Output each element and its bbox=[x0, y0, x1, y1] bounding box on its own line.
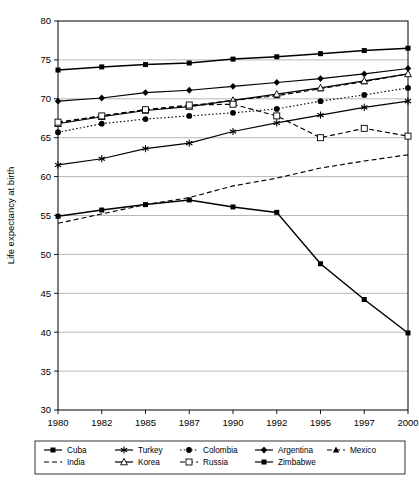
data-point-russia-1997 bbox=[361, 125, 367, 131]
legend-label-korea: Korea bbox=[138, 458, 160, 467]
data-point-russia-1990 bbox=[230, 101, 236, 107]
data-point-russia-1987 bbox=[186, 102, 192, 108]
y-tick-label-70: 70 bbox=[40, 93, 51, 104]
legend-item-turkey[interactable]: Turkey bbox=[115, 446, 164, 455]
y-tick-label-80: 80 bbox=[40, 15, 51, 26]
data-point-zimbabwe-1997 bbox=[362, 297, 367, 302]
data-point-argentina-1997 bbox=[361, 71, 367, 78]
series-cuba bbox=[56, 46, 411, 73]
data-point-colombia-1982 bbox=[99, 121, 105, 127]
x-tick-label-1995: 1995 bbox=[310, 417, 331, 428]
x-tick-label-1992: 1992 bbox=[266, 417, 287, 428]
x-tick-label-2000: 2000 bbox=[397, 417, 418, 428]
y-tick-label-60: 60 bbox=[40, 171, 51, 182]
data-point-colombia-1987 bbox=[186, 113, 192, 119]
legend-item-argentina[interactable]: Argentina bbox=[255, 446, 313, 455]
data-point-zimbabwe-1987 bbox=[187, 197, 192, 202]
x-tick-label-1982: 1982 bbox=[91, 417, 112, 428]
legend-marker-filled-circle bbox=[186, 447, 192, 453]
data-point-zimbabwe-1982 bbox=[99, 208, 104, 213]
legend-label-cuba: Cuba bbox=[67, 446, 87, 455]
legend-marker-open-square bbox=[186, 459, 192, 465]
legend-label-mexico: Mexico bbox=[350, 446, 376, 455]
data-point-zimbabwe-1992 bbox=[274, 210, 279, 215]
y-tick-label-35: 35 bbox=[40, 366, 51, 377]
data-point-cuba-1980 bbox=[56, 68, 61, 73]
data-point-argentina-1995 bbox=[317, 75, 323, 82]
legend-label-russia: Russia bbox=[203, 458, 228, 467]
data-point-cuba-1987 bbox=[187, 61, 192, 66]
legend-label-colombia: Colombia bbox=[203, 446, 238, 455]
data-point-zimbabwe-1980 bbox=[56, 214, 61, 219]
legend-item-korea[interactable]: Korea bbox=[115, 458, 160, 467]
y-tick-label-45: 45 bbox=[40, 288, 51, 299]
data-point-russia-1992 bbox=[274, 113, 280, 119]
data-point-russia-1980 bbox=[55, 119, 61, 125]
series-india bbox=[58, 155, 408, 223]
data-point-argentina-1987 bbox=[186, 87, 192, 94]
data-point-argentina-1992 bbox=[274, 79, 280, 86]
data-point-argentina-1985 bbox=[142, 89, 148, 96]
y-axis-title-group: Life expectancy at birth bbox=[5, 167, 16, 265]
series-korea bbox=[55, 70, 412, 126]
data-point-cuba-1992 bbox=[274, 54, 279, 59]
y-tick-label-40: 40 bbox=[40, 327, 51, 338]
data-point-cuba-2000 bbox=[406, 46, 411, 51]
chart-svg: 3035404550556065707580 19801982198519871… bbox=[0, 0, 419, 480]
y-tick-labels-group: 3035404550556065707580 bbox=[40, 15, 51, 415]
series-line-india bbox=[58, 155, 408, 223]
y-axis-title: Life expectancy at birth bbox=[5, 167, 16, 265]
y-tick-label-65: 65 bbox=[40, 132, 51, 143]
data-point-korea-2000 bbox=[405, 70, 412, 76]
legend-marker-filled-square bbox=[262, 460, 267, 465]
legend-item-india[interactable]: India bbox=[44, 458, 85, 467]
data-point-cuba-1995 bbox=[318, 51, 323, 56]
data-point-cuba-1997 bbox=[362, 48, 367, 53]
data-point-cuba-1990 bbox=[231, 57, 236, 62]
series-turkey bbox=[55, 98, 411, 169]
y-tick-label-55: 55 bbox=[40, 210, 51, 221]
legend-item-russia[interactable]: Russia bbox=[180, 458, 228, 467]
series-zimbabwe bbox=[56, 197, 411, 335]
x-tick-labels-group: 198019821985198719901992199519972000 bbox=[47, 417, 418, 428]
data-point-zimbabwe-1990 bbox=[231, 204, 236, 209]
y-tick-label-50: 50 bbox=[40, 249, 51, 260]
legend-item-mexico[interactable]: Mexico bbox=[327, 446, 376, 455]
data-point-colombia-1992 bbox=[274, 106, 280, 112]
x-tick-label-1990: 1990 bbox=[222, 417, 243, 428]
data-point-colombia-1995 bbox=[318, 98, 324, 104]
data-point-colombia-1997 bbox=[361, 92, 367, 98]
data-point-zimbabwe-1985 bbox=[143, 202, 148, 207]
series-line-zimbabwe bbox=[58, 200, 408, 333]
data-point-russia-1982 bbox=[99, 113, 105, 119]
data-point-colombia-1980 bbox=[55, 129, 61, 135]
data-point-colombia-1990 bbox=[230, 110, 236, 116]
data-point-cuba-1985 bbox=[143, 62, 148, 67]
x-tick-label-1987: 1987 bbox=[179, 417, 200, 428]
x-tick-label-1985: 1985 bbox=[135, 417, 156, 428]
life-expectancy-line-chart: 3035404550556065707580 19801982198519871… bbox=[0, 0, 419, 480]
data-point-cuba-1982 bbox=[99, 64, 104, 69]
legend-marker-filled-diamond bbox=[261, 447, 267, 454]
data-point-colombia-2000 bbox=[405, 85, 411, 91]
tickmarks-group bbox=[54, 21, 408, 414]
data-point-zimbabwe-2000 bbox=[406, 330, 411, 335]
data-point-argentina-1982 bbox=[99, 95, 105, 102]
legend-item-cuba[interactable]: Cuba bbox=[44, 446, 87, 455]
x-tick-label-1980: 1980 bbox=[47, 417, 68, 428]
data-point-russia-1995 bbox=[318, 135, 324, 141]
legend-group: CubaTurkeyColombiaArgentinaMexicoIndiaKo… bbox=[35, 441, 405, 474]
data-point-russia-1985 bbox=[143, 107, 149, 113]
legend-item-colombia[interactable]: Colombia bbox=[180, 446, 238, 455]
x-tick-label-1997: 1997 bbox=[354, 417, 375, 428]
y-tick-label-75: 75 bbox=[40, 54, 51, 65]
legend-label-turkey: Turkey bbox=[138, 446, 164, 455]
legend-label-india: India bbox=[67, 458, 85, 467]
legend-marker-filled-square bbox=[51, 448, 56, 453]
legend-label-zimbabwe: Zimbabwe bbox=[278, 458, 316, 467]
series-colombia bbox=[55, 85, 411, 135]
chart-page: 3035404550556065707580 19801982198519871… bbox=[0, 0, 419, 480]
data-point-zimbabwe-1995 bbox=[318, 261, 323, 266]
legend-item-zimbabwe[interactable]: Zimbabwe bbox=[255, 458, 316, 467]
legend-label-argentina: Argentina bbox=[278, 446, 313, 455]
